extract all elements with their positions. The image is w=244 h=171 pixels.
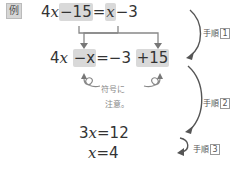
equation-line-3: 3x=12: [79, 124, 129, 142]
example-label: 例: [6, 3, 22, 19]
step-text: 手順: [193, 145, 209, 154]
step-text: 手順: [203, 99, 219, 108]
step-3-label: 手順3: [193, 143, 220, 155]
step-2-label: 手順2: [203, 97, 230, 109]
coef: 4: [50, 49, 60, 67]
equation-line-1: 4x−15=x−3: [41, 3, 138, 21]
equation-line-4: x=4: [88, 144, 119, 162]
note-line-2: 注意。: [105, 98, 129, 109]
step-number: 1: [220, 28, 230, 39]
highlight-term: −x: [73, 49, 96, 67]
coef: 3: [79, 124, 89, 142]
variable: x: [89, 124, 97, 142]
highlight-term: −15: [59, 3, 93, 21]
step-number: 2: [220, 98, 230, 109]
variable: x: [60, 49, 68, 67]
step-1-label: 手順1: [203, 27, 230, 39]
equation-line-2: 4x −x=−3 +15: [50, 49, 169, 67]
rhs: =4: [96, 144, 118, 162]
rhs: =−3: [96, 49, 131, 67]
highlight-term: x: [105, 3, 115, 21]
step-number: 3: [210, 144, 220, 155]
highlight-term: +15: [136, 49, 170, 67]
coef: 4: [41, 3, 51, 21]
note-line-1: 符号に: [101, 83, 125, 94]
constant: −3: [116, 3, 138, 21]
variable: x: [51, 3, 59, 21]
rhs: =12: [97, 124, 129, 142]
equals: =: [93, 3, 106, 21]
step-text: 手順: [203, 29, 219, 38]
